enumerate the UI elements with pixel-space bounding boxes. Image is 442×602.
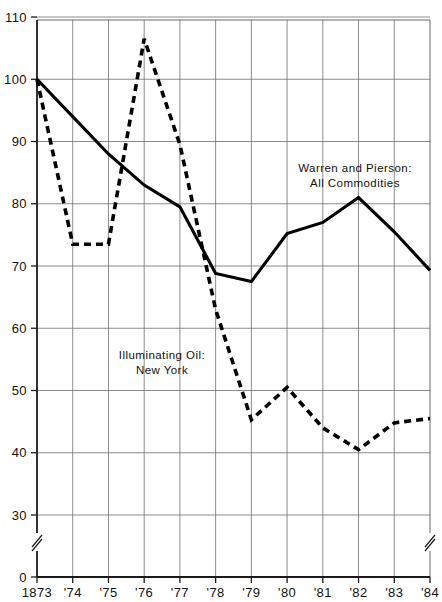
plot-frame: [37, 20, 430, 577]
x-tick-label-84: '84: [421, 585, 439, 600]
annotation-warren-pierson-line1: Warren and Pierson:: [298, 162, 412, 174]
x-tick-label-83: '83: [385, 585, 403, 600]
y-axis-ticks: 030405060708090100110: [4, 10, 37, 585]
y-tick-label-30: 30: [12, 508, 27, 523]
annotation-warren-pierson-line2: All Commodities: [310, 177, 400, 189]
x-axis-ticks: 1873'74'75'76'77'78'79'80'81'82'83'84: [22, 577, 439, 600]
x-tick-label-75: '75: [99, 585, 117, 600]
y-tick-label-80: 80: [12, 196, 27, 211]
y-tick-label-60: 60: [12, 321, 27, 336]
annotation-illuminating-oil-line2: New York: [136, 364, 188, 376]
x-tick-label-76: '76: [135, 585, 153, 600]
y-tick-label-100: 100: [4, 72, 27, 87]
x-tick-label-78: '78: [207, 585, 225, 600]
x-tick-label-81: '81: [314, 585, 332, 600]
line-chart: 030405060708090100110 1873'74'75'76'77'7…: [0, 0, 442, 602]
x-tick-label-1873: 1873: [22, 585, 53, 600]
x-tick-label-80: '80: [278, 585, 296, 600]
y-tick-label-70: 70: [12, 259, 27, 274]
x-tick-label-79: '79: [242, 585, 260, 600]
x-tick-label-74: '74: [64, 585, 82, 600]
data-series: [37, 39, 430, 450]
y-tick-label-110: 110: [5, 10, 27, 25]
y-tick-label-40: 40: [12, 445, 27, 460]
chart-container: 030405060708090100110 1873'74'75'76'77'7…: [0, 0, 442, 602]
x-tick-label-77: '77: [171, 585, 189, 600]
annotation-illuminating-oil-line1: Illuminating Oil:: [119, 349, 205, 361]
axis-break-marks: [32, 533, 435, 551]
gridlines: [37, 17, 430, 577]
y-tick-label-0: 0: [19, 570, 27, 585]
series-line-illuminating-oil: [37, 39, 430, 450]
y-tick-label-50: 50: [12, 383, 27, 398]
series-annotations: Warren and Pierson: All Commodities Illu…: [119, 162, 412, 376]
x-tick-label-82: '82: [349, 585, 367, 600]
y-tick-label-90: 90: [12, 134, 27, 149]
